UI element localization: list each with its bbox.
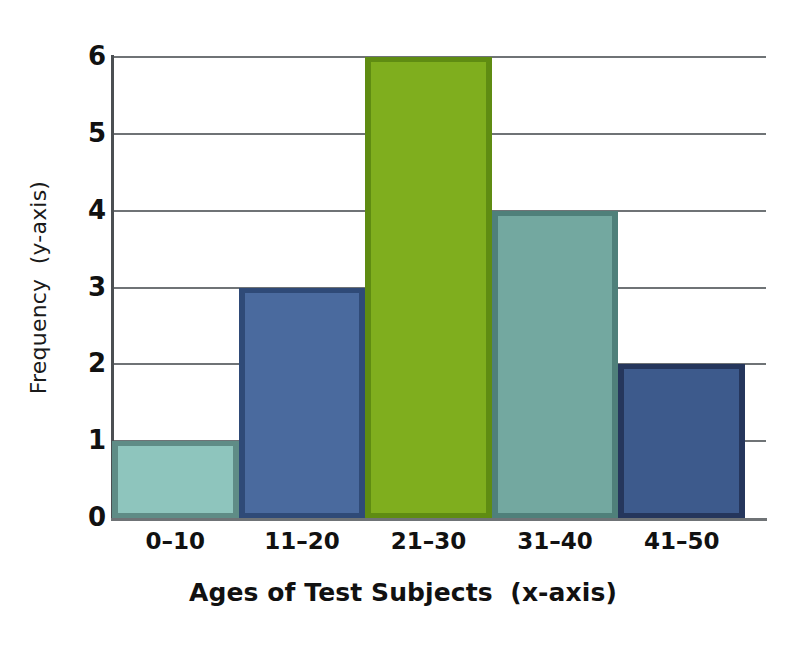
bar (239, 288, 366, 519)
y-axis-tick-label: 1 (72, 427, 106, 453)
bar-fill (498, 216, 613, 513)
bar (365, 57, 492, 518)
x-axis-tick-label: 31–40 (492, 529, 619, 553)
x-axis-tick-label: 11–20 (239, 529, 366, 553)
y-axis-title: Frequency (y-axis) (26, 128, 51, 448)
y-axis-tick-label: 4 (72, 197, 106, 223)
bar-series (112, 57, 745, 518)
y-axis-tick-label: 3 (72, 274, 106, 300)
x-axis-tick-label: 21–30 (365, 529, 492, 553)
x-axis-line (111, 518, 767, 521)
y-axis-tick-label: 6 (72, 43, 106, 69)
bar-fill (624, 369, 739, 513)
x-axis-tick-label: 41–50 (618, 529, 745, 553)
histogram-chart: Frequency (y-axis) 6543210 0–1011–2021–3… (0, 0, 806, 654)
x-axis-tick-label: 0–10 (112, 529, 239, 553)
bar-fill (118, 446, 233, 513)
y-axis-tick-labels: 6543210 (62, 0, 106, 654)
x-axis-title: Ages of Test Subjects (x-axis) (0, 578, 806, 607)
bar (618, 364, 745, 518)
bar-fill (245, 293, 360, 514)
y-axis-tick-label: 0 (72, 504, 106, 530)
bar (112, 441, 239, 518)
bar-fill (371, 62, 486, 513)
x-axis-tick-labels: 0–1011–2021–3031–4041–50 (112, 529, 745, 569)
y-axis-tick-label: 2 (72, 350, 106, 376)
y-axis-tick-label: 5 (72, 120, 106, 146)
bar (492, 211, 619, 518)
